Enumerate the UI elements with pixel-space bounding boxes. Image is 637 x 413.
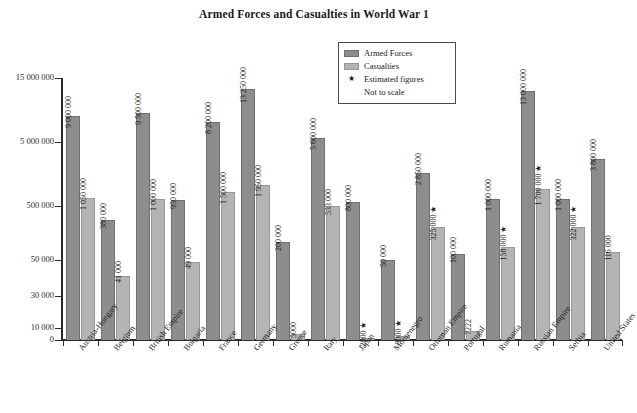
bar-value-label: 9 000 000 bbox=[64, 96, 73, 128]
bar-casualties bbox=[326, 206, 340, 340]
x-axis-tick bbox=[483, 340, 484, 346]
x-axis-tick bbox=[133, 340, 134, 346]
bar-value-label: 41 000 bbox=[114, 261, 123, 283]
bar-casualties bbox=[536, 189, 550, 340]
y-axis-tick-label: 500 000 bbox=[0, 201, 54, 210]
y-axis-tick bbox=[55, 78, 62, 79]
bar-value-label: 13 000 000 bbox=[519, 69, 528, 105]
bar-casualties bbox=[151, 199, 165, 340]
bar-value-label: 325 000 ★ bbox=[429, 206, 438, 241]
y-axis-tick-label: 50 000 bbox=[0, 255, 54, 264]
legend-swatch-armed-forces-icon bbox=[344, 50, 359, 57]
x-axis-tick bbox=[518, 340, 519, 346]
bar-armed-forces bbox=[346, 202, 360, 340]
x-axis-tick bbox=[308, 340, 309, 346]
x-axis-tick bbox=[238, 340, 239, 346]
bar-value-label: 49 000 bbox=[184, 247, 193, 269]
bar-armed-forces bbox=[311, 138, 325, 340]
legend-item-not-to-scale: Not to scale bbox=[344, 86, 450, 98]
bar-armed-forces bbox=[486, 199, 500, 340]
bar-armed-forces bbox=[66, 116, 80, 340]
bar-value-label: 1 050 000 bbox=[79, 178, 88, 210]
bar-value-label: 1 700 000 ★ bbox=[534, 164, 543, 205]
bar-casualties bbox=[221, 192, 235, 340]
bar-value-label: 13 250 000 bbox=[239, 67, 248, 103]
y-axis-tick-label: 15 000 000 bbox=[0, 73, 54, 82]
legend-label-not-to-scale: Not to scale bbox=[364, 87, 405, 97]
x-axis-tick bbox=[378, 340, 379, 346]
y-axis-tick bbox=[55, 142, 62, 143]
x-axis-tick bbox=[588, 340, 589, 346]
bar-value-label: 9 500 000 bbox=[134, 93, 143, 125]
bar-casualties bbox=[571, 227, 585, 340]
bar-value-label: 50 000 bbox=[379, 245, 388, 267]
bar-value-label: 2 850 000 bbox=[414, 153, 423, 185]
y-axis-tick bbox=[55, 296, 62, 297]
bar-armed-forces bbox=[136, 113, 150, 340]
bar-casualties bbox=[431, 227, 445, 340]
x-axis-tick bbox=[448, 340, 449, 346]
legend-label-casualties: Casualties bbox=[364, 61, 399, 71]
x-axis-tick bbox=[273, 340, 274, 346]
legend-item-estimated: ★ Estimated figures bbox=[344, 73, 450, 85]
bar-value-label: 1 500 000 bbox=[219, 172, 228, 204]
bar-armed-forces bbox=[206, 122, 220, 340]
bar-value-label: 1 000 000 bbox=[554, 179, 563, 211]
x-axis-tick bbox=[553, 340, 554, 346]
legend-item-casualties: Casualties bbox=[344, 60, 450, 72]
bar-value-label: 158 000 ★ bbox=[499, 226, 508, 261]
bar-value-label: 950 000 bbox=[169, 183, 178, 209]
bar-value-label: 533 000 bbox=[324, 189, 333, 215]
bottom-caption bbox=[30, 405, 610, 413]
bar-armed-forces bbox=[521, 91, 535, 340]
y-axis-tick-label: 0 bbox=[0, 335, 54, 344]
bar-value-label: 8 200 000 bbox=[204, 102, 213, 134]
legend-label-estimated: Estimated figures bbox=[364, 74, 424, 84]
legend-label-armed-forces: Armed Forces bbox=[364, 48, 412, 58]
x-axis-tick bbox=[168, 340, 169, 346]
y-axis-tick-label: 5 000 000 bbox=[0, 137, 54, 146]
star-icon: ★ bbox=[344, 75, 359, 83]
y-axis-tick bbox=[55, 206, 62, 207]
y-axis-tick-label: 30 000 bbox=[0, 291, 54, 300]
bar-value-label: 322 000 ★ bbox=[569, 206, 578, 241]
x-axis-tick bbox=[98, 340, 99, 346]
bar-value-label: 116 000 bbox=[604, 235, 613, 261]
legend-swatch-casualties-icon bbox=[344, 63, 359, 70]
y-axis-tick bbox=[55, 328, 62, 329]
chart-title: Armed Forces and Casualties in World War… bbox=[0, 8, 628, 20]
bar-armed-forces bbox=[241, 89, 255, 340]
bar-casualties bbox=[81, 198, 95, 340]
bar-value-label: 380 000 bbox=[99, 203, 108, 229]
x-axis-tick bbox=[413, 340, 414, 346]
bar-value-label: 800 000 bbox=[344, 185, 353, 211]
y-axis-tick bbox=[55, 260, 62, 261]
y-axis-line bbox=[61, 78, 63, 341]
bar-value-label: 3 800 000 bbox=[589, 139, 598, 171]
bar-value-label: 1 000 000 bbox=[149, 179, 158, 211]
bar-value-label: 100 000 bbox=[449, 237, 458, 263]
bar-value-label: 200 000 bbox=[274, 225, 283, 251]
bar-value-label: 5 600 000 bbox=[309, 118, 318, 150]
bar-value-label: 1 950 000 bbox=[254, 165, 263, 197]
x-axis-tick bbox=[203, 340, 204, 346]
legend-item-armed-forces: Armed Forces bbox=[344, 47, 450, 59]
y-axis-tick bbox=[55, 340, 62, 341]
bar-casualties bbox=[256, 185, 270, 340]
chart-legend: Armed Forces Casualties ★ Estimated figu… bbox=[338, 42, 456, 104]
x-axis-tick bbox=[343, 340, 344, 346]
x-axis-tick bbox=[63, 340, 64, 346]
bar-value-label: 1 000 000 bbox=[484, 179, 493, 211]
x-axis-tick bbox=[622, 340, 623, 346]
y-axis-tick-label: 10 000 bbox=[0, 323, 54, 332]
